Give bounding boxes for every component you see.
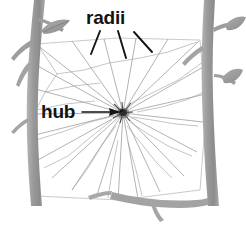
web-illustration — [0, 0, 246, 225]
right-branch — [182, 0, 246, 206]
leaf-right-lower — [222, 69, 243, 83]
leaf-right-upper — [225, 16, 246, 30]
radii-label: radii — [86, 8, 125, 27]
spider-web-figure: radii hub — [0, 0, 246, 225]
bottom-branch — [88, 191, 208, 222]
hub-label: hub — [41, 102, 75, 121]
radii-leader-lines — [91, 31, 152, 58]
